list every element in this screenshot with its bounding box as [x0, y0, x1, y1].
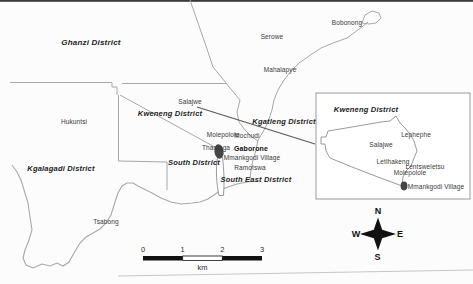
kweneng-south-boundary-line — [120, 95, 222, 151]
compass-rose-icon — [360, 218, 396, 251]
inset-study-area-marker — [401, 182, 408, 191]
figure-top-edge — [0, 0, 473, 2]
ghanzi-boundary-line — [10, 83, 117, 96]
river-line — [362, 11, 381, 24]
scale-bar-segment-1 — [143, 256, 183, 261]
railway-line — [197, 107, 315, 144]
kgalagadi-boundary-line — [119, 95, 168, 190]
central-boundary-line — [190, 0, 258, 141]
scale-bar-segment-3 — [222, 256, 262, 261]
road-corridor-outline — [216, 157, 224, 196]
botswana-districts-map-figure: Ghanzi DistrictKweneng DistrictKgatleng … — [0, 0, 473, 284]
map-canvas — [0, 0, 473, 284]
scale-bar-segment-2 — [183, 256, 223, 261]
figure-bottom-edge — [118, 270, 473, 276]
